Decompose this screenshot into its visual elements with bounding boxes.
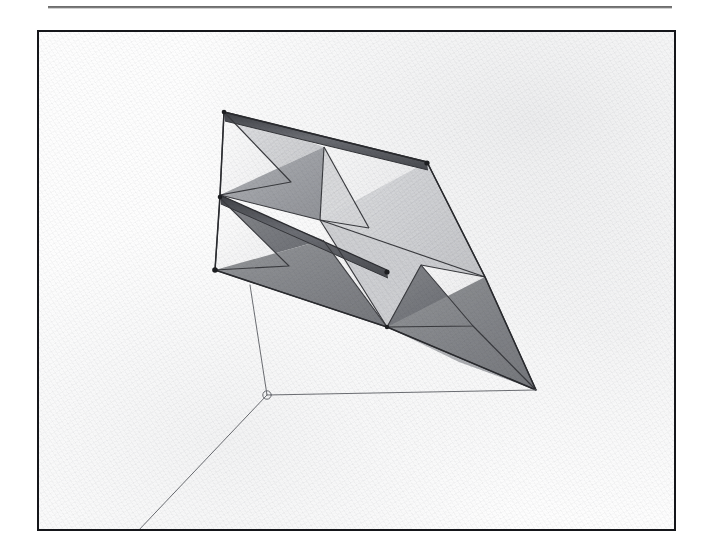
- page-top-rule: [48, 6, 672, 9]
- figure-frame: [37, 30, 676, 531]
- pencil-drawing: [39, 32, 674, 529]
- page-canvas: Hand-drawn pencil figure of a folded tri…: [0, 0, 702, 551]
